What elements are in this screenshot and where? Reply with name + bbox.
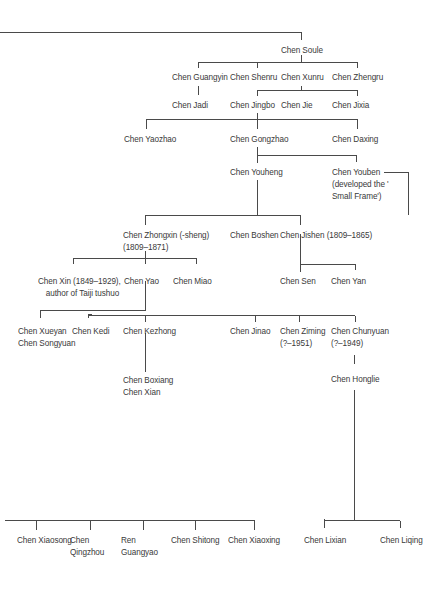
node-chen-youheng: Chen Youheng <box>230 166 283 178</box>
node-chen-kedi: Chen Kedi <box>72 325 109 337</box>
node-chen-jixia: Chen Jixia <box>332 99 369 111</box>
node-chen-xin: Chen Xin (1849–1929), author of Taiji tu… <box>38 275 121 299</box>
node-chen-gongzhao: Chen Gongzhao <box>230 133 288 145</box>
node-chen-shenru: Chen Shenru <box>230 71 277 83</box>
node-chen-boshen: Chen Boshen <box>230 229 279 241</box>
node-chen-kezhong: Chen Kezhong <box>123 325 176 337</box>
node-chen-yao: Chen Yao <box>124 275 159 287</box>
node-chen-xiaosong: Chen Xiaosong <box>17 534 72 546</box>
node-chen-sen: Chen Sen <box>280 275 316 287</box>
node-chen-guangyin: Chen Guangyin <box>172 71 228 83</box>
node-chen-jishen: Chen Jishen (1809–1865) <box>280 229 372 241</box>
family-tree-diagram: Chen Soule Chen Guangyin Chen Shenru Che… <box>0 0 436 594</box>
node-chen-zhengru: Chen Zhengru <box>332 71 383 83</box>
node-chen-yan: Chen Yan <box>331 275 366 287</box>
node-chen-soule: Chen Soule <box>281 44 323 56</box>
node-chen-xunru: Chen Xunru <box>281 71 324 83</box>
node-chen-lixian: Chen Lixian <box>304 534 346 546</box>
node-chen-ziming: Chen Ziming (?–1951) <box>280 325 325 349</box>
node-chen-zhongxin: Chen Zhongxin (-sheng) (1809–1871) <box>123 229 209 253</box>
node-chen-miao: Chen Miao <box>173 275 212 287</box>
node-chen-boxiang: Chen Boxiang Chen Xian <box>123 374 173 398</box>
node-chen-qingzhou: Chen Qingzhou <box>70 534 104 558</box>
node-chen-yaozhao: Chen Yaozhao <box>124 133 176 145</box>
node-ren-guangyao: Ren Guangyao <box>121 534 158 558</box>
node-chen-xueyan: Chen Xueyan Chen Songyuan <box>18 325 75 349</box>
node-chen-jingbo: Chen Jingbo <box>230 99 275 111</box>
node-chen-honglie: Chen Honglie <box>331 373 379 385</box>
node-chen-youben: Chen Youben (developed the ' Small Frame… <box>332 166 389 202</box>
node-chen-chunyuan: Chen Chunyuan (?–1949) <box>331 325 389 349</box>
node-chen-jie: Chen Jie <box>281 99 313 111</box>
node-chen-jadi: Chen Jadi <box>172 99 208 111</box>
node-chen-xiaoxing: Chen Xiaoxing <box>228 534 280 546</box>
node-chen-shitong: Chen Shitong <box>171 534 219 546</box>
node-chen-jinao: Chen Jinao <box>230 325 270 337</box>
node-chen-daxing: Chen Daxing <box>332 133 378 145</box>
node-chen-liqing: Chen Liqing <box>380 534 423 546</box>
